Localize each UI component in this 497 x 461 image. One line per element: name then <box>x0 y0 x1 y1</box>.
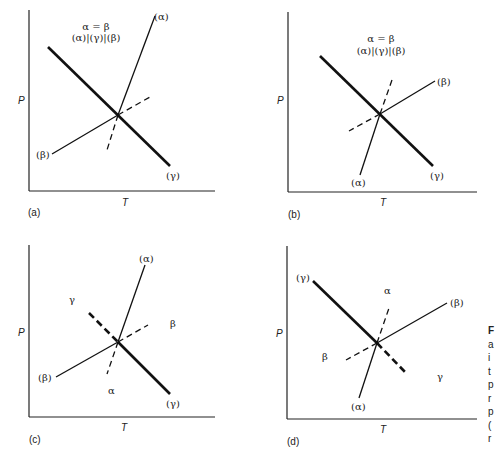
beta-curve <box>380 81 435 114</box>
beta-metastable-extension <box>118 97 150 115</box>
beta-region-label: β <box>170 318 176 329</box>
p-axis-label: P <box>18 327 25 338</box>
gamma-curve <box>320 56 433 166</box>
panel-c: (α) (β) (γ) γ β α P T (c) <box>18 245 215 445</box>
gamma-region-label: γ <box>437 371 443 382</box>
alpha-curve <box>118 265 145 342</box>
caption-char: p <box>488 405 497 419</box>
gamma-curve-label: (γ) <box>166 398 180 409</box>
caption-char: a <box>488 338 497 352</box>
alpha-curve <box>359 343 377 398</box>
panel-label: (d) <box>287 436 299 447</box>
alpha-metastable-extension <box>380 80 392 114</box>
alpha-region-label: α <box>108 385 115 396</box>
t-axis-label: T <box>380 424 387 435</box>
beta-curve-label: (β) <box>437 76 451 87</box>
p-axis-label: P <box>276 328 283 339</box>
gamma-curve-label: (γ) <box>296 272 310 283</box>
p-axis-label: P <box>18 95 25 106</box>
panel-b: α = β (α)|(γ)|(β) (β) (α) (γ) P T (b) <box>277 12 477 220</box>
t-axis-label: T <box>121 422 128 433</box>
p-axis-label: P <box>277 95 284 106</box>
caption-char: F <box>488 324 497 338</box>
alpha-region-label: α <box>384 285 391 296</box>
panel-a: α = β (α)|(γ)|(β) (α) (β) (γ) P T (a) <box>18 10 215 218</box>
caption-char: r <box>488 392 497 406</box>
alpha-curve-label: (α) <box>139 253 154 264</box>
cropped-caption-fragment: F a i t p r p ( r <box>488 324 497 446</box>
alpha-curve <box>360 114 380 175</box>
gamma-metastable-extension <box>377 343 406 373</box>
alpha-curve-label: (α) <box>154 11 169 22</box>
panel-label: (c) <box>29 434 41 445</box>
equilibrium-annotation: α = β <box>367 33 394 44</box>
gamma-metastable-extension <box>89 313 118 342</box>
panel-label: (a) <box>28 207 40 218</box>
panel-label: (b) <box>288 209 300 220</box>
triple-point-annotation: (α)|(γ)|(β) <box>72 32 121 44</box>
beta-curve <box>377 303 447 343</box>
beta-region-label: β <box>322 351 328 362</box>
alpha-curve <box>118 16 155 115</box>
beta-curve-label: (β) <box>36 149 50 160</box>
gamma-curve <box>118 342 170 394</box>
beta-curve-label: (β) <box>38 372 52 383</box>
gamma-curve-label: (γ) <box>166 170 180 181</box>
t-axis-label: T <box>122 197 129 208</box>
gamma-curve <box>48 47 170 166</box>
caption-char: r <box>488 432 497 446</box>
equilibrium-annotation: α = β <box>82 21 109 32</box>
caption-char: t <box>488 365 497 379</box>
triple-point-annotation: (α)|(γ)|(β) <box>357 45 406 57</box>
phase-diagram-figure: α = β (α)|(γ)|(β) (α) (β) (γ) P T (a) α … <box>0 0 497 461</box>
caption-char: i <box>488 351 497 365</box>
caption-char: p <box>488 378 497 392</box>
gamma-region-label: γ <box>69 294 75 305</box>
alpha-curve-label: (α) <box>351 177 366 188</box>
caption-char: ( <box>488 419 497 433</box>
beta-curve <box>56 342 118 377</box>
beta-curve-label: (β) <box>450 297 464 308</box>
t-axis-label: T <box>380 197 387 208</box>
panel-d: (γ) (β) (α) α β γ P T (d) <box>276 246 477 447</box>
gamma-curve-label: (γ) <box>430 170 444 181</box>
gamma-curve <box>313 281 377 343</box>
alpha-curve-label: (α) <box>351 401 366 412</box>
